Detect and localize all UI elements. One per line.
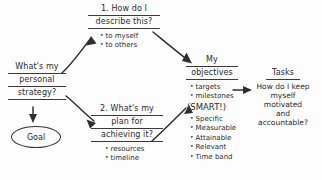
plan-heading-2: plan for bbox=[91, 117, 163, 129]
arrow-start-to-goal bbox=[29, 107, 37, 123]
describe-heading-1: 1. How do I bbox=[88, 4, 160, 16]
start-question: What's my personal strategy? bbox=[8, 62, 66, 102]
objectives-heading-2: objectives bbox=[186, 68, 238, 80]
objectives-heading-1: My bbox=[186, 55, 238, 67]
tasks-body-line: myself bbox=[250, 91, 316, 100]
objectives-bullets: targets milestones bbox=[186, 82, 238, 101]
goal-label: Goal bbox=[27, 133, 45, 142]
tasks-body-line: How do I keep bbox=[250, 82, 316, 91]
list-item: targets bbox=[190, 82, 238, 92]
branch-plan: 2. What's my plan for achieving it? reso… bbox=[91, 104, 163, 163]
tasks-heading: Tasks bbox=[266, 68, 300, 80]
tasks-body-line: and bbox=[250, 109, 316, 118]
list-item: timeline bbox=[105, 153, 163, 163]
list-item: resources bbox=[105, 144, 163, 154]
start-line-2: personal bbox=[8, 75, 66, 87]
tasks-body-line: motivated bbox=[250, 100, 316, 109]
tasks-body: How do I keep myself motivated and accou… bbox=[250, 82, 316, 127]
describe-heading-2: describe this? bbox=[88, 17, 160, 29]
tasks-body-line: accountable? bbox=[250, 118, 316, 127]
tasks-node: Tasks How do I keep myself motivated and… bbox=[250, 68, 316, 127]
list-item: Specific bbox=[190, 114, 238, 124]
objectives-node: My objectives targets milestones (SMART!… bbox=[186, 55, 238, 161]
smart-list: Specific Measurable Attainable Relevant … bbox=[186, 114, 238, 162]
plan-bullets: resources timeline bbox=[91, 144, 163, 163]
plan-heading-1: 2. What's my bbox=[91, 104, 163, 116]
start-line-3: strategy? bbox=[8, 88, 66, 100]
list-item: Relevant bbox=[190, 142, 238, 152]
start-line-1: What's my bbox=[8, 62, 66, 74]
list-item: Attainable bbox=[190, 133, 238, 143]
list-item: Measurable bbox=[190, 123, 238, 133]
list-item: to myself bbox=[100, 31, 160, 41]
diagram-canvas: What's my personal strategy? Goal 1. How… bbox=[0, 0, 322, 180]
describe-bullets: to myself to others bbox=[88, 31, 160, 50]
list-item: to others bbox=[100, 40, 160, 50]
smart-acronym-label: (SMART!) bbox=[186, 102, 238, 113]
goal-oval: Goal bbox=[11, 126, 61, 148]
plan-heading-3: achieving it? bbox=[91, 130, 163, 142]
branch-describe: 1. How do I describe this? to myself to … bbox=[88, 4, 160, 50]
list-item: milestones bbox=[190, 91, 238, 101]
list-item: Time band bbox=[190, 152, 238, 162]
